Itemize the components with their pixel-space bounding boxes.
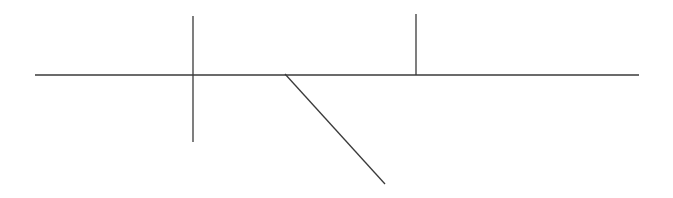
diagonal-line	[285, 74, 385, 184]
line-diagram	[0, 0, 673, 198]
